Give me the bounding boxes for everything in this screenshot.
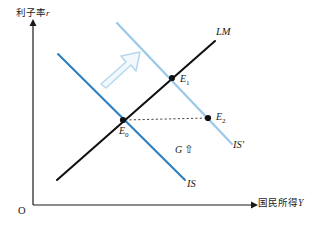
lm-curve-label: LM [216, 27, 231, 38]
diagram-canvas [0, 0, 323, 226]
y-axis-label-text: 利子率 [16, 7, 46, 18]
up-arrow-circle-icon: ⇧ [184, 144, 193, 155]
shock-variable: G [175, 145, 182, 155]
x-axis-label-text: 国民所得 [258, 197, 298, 208]
point-label-e0: E0 [119, 126, 129, 139]
point-marker-e0 [120, 117, 126, 123]
point-marker-e1 [169, 75, 175, 81]
is-prime-curve-label: IS' [233, 140, 244, 151]
x-axis-label: 国民所得Y [258, 198, 303, 209]
point-label-e1-sub: 1 [186, 79, 190, 87]
y-axis-label-var: r [46, 8, 50, 18]
is-curve-label: IS [187, 179, 196, 190]
point-label-e2-sub: 2 [222, 117, 226, 125]
point-marker-e2 [205, 115, 211, 121]
x-axis-label-var: Y [298, 198, 303, 208]
origin-label: O [18, 206, 26, 217]
is-lm-diagram: 利子率r 国民所得Y O LM IS IS' E0 E1 E2 G⇧ [0, 0, 323, 226]
point-label-e1: E1 [180, 74, 190, 87]
point-label-e2: E2 [216, 112, 226, 125]
government-spending-shock-label: G⇧ [175, 144, 193, 155]
y-axis-label: 利子率r [16, 8, 50, 18]
point-label-e0-sub: 0 [125, 131, 129, 139]
is-shift-arrow-icon [101, 52, 140, 88]
e0-e2-dashed-guide [125, 118, 207, 120]
